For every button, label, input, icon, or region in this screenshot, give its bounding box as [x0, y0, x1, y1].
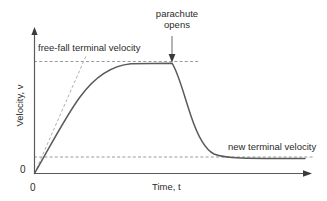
free-fall-terminal-velocity-label: free-fall terminal velocity — [38, 43, 140, 54]
x-axis-origin-tick-label: 0 — [30, 182, 36, 194]
arrow-right-icon — [303, 170, 312, 177]
arrow-up-icon — [31, 27, 37, 35]
new-terminal-velocity-label: new terminal velocity — [228, 142, 316, 153]
initial-gradient-tangent — [35, 56, 87, 174]
velocity-time-graph-figure: free-fall terminal velocity parachute op… — [0, 0, 327, 201]
x-axis-label: Time, t — [152, 182, 181, 193]
y-axis-origin-tick-label: 0 — [20, 164, 26, 176]
y-axis-label: Velocity, v — [15, 74, 26, 136]
parachute-opens-label: parachute opens — [146, 9, 208, 31]
